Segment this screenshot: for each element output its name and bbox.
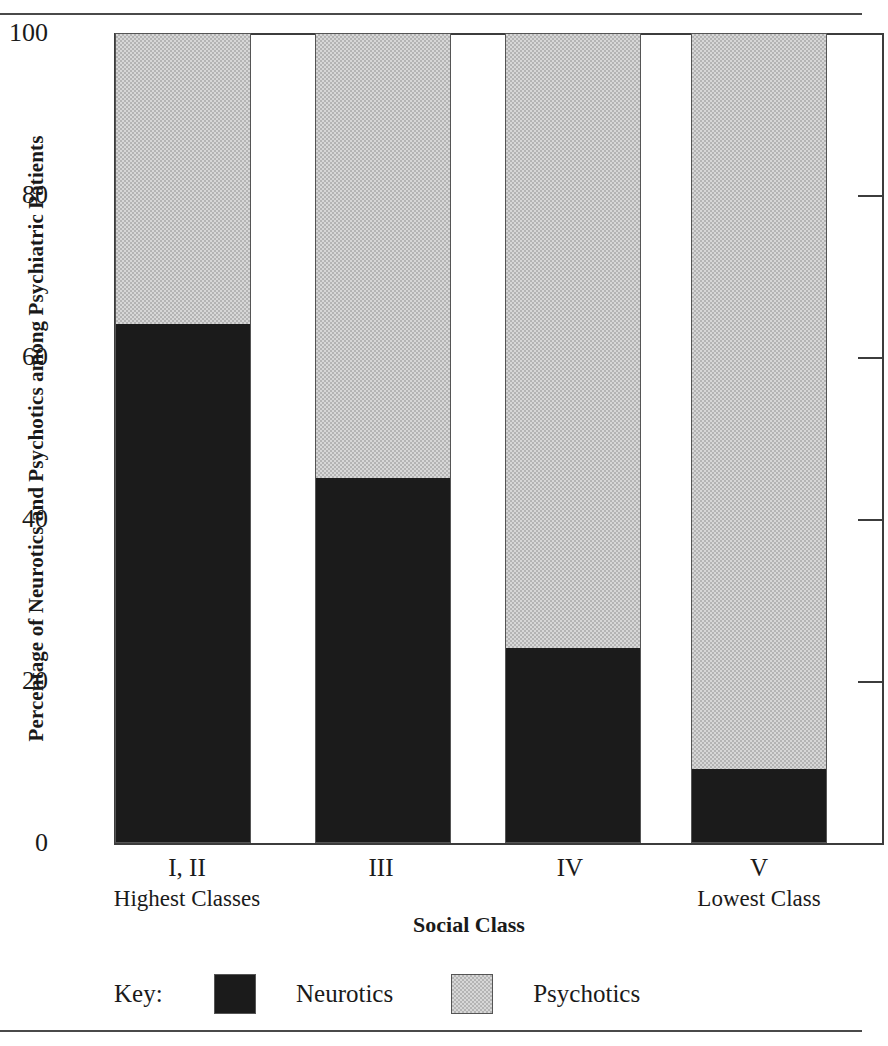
y-axis-title: Percentage of Neurotics and Psychotics a… (24, 29, 49, 849)
y-tick-right-60 (858, 357, 884, 359)
bar-segment-neurotics (316, 478, 450, 843)
bar-class-4[interactable] (505, 33, 641, 843)
bar-segment-psychotics (316, 34, 450, 480)
x-axis-title: Social Class (114, 912, 824, 938)
light-swatch-icon (451, 974, 493, 1014)
chart-figure: Percentage of Neurotics and Psychotics a… (0, 16, 862, 1028)
dark-swatch-icon (214, 974, 256, 1014)
chart-legend: Key: Neurotics Psychotics (114, 971, 824, 1017)
y-tick-label-20: 20 (0, 668, 48, 694)
bar-segment-neurotics (692, 769, 826, 842)
bar-segment-neurotics (116, 324, 250, 842)
y-tick-right-40 (858, 519, 884, 521)
y-tick-label-0: 0 (0, 830, 48, 856)
legend-key-label: Key: (114, 980, 214, 1008)
bar-segment-psychotics (116, 34, 250, 326)
x-category-label-4: V Lowest Class (619, 852, 888, 913)
legend-entry-psychotics[interactable]: Psychotics (451, 974, 640, 1014)
plot-right-border (882, 33, 884, 843)
y-tick-right-80 (858, 195, 884, 197)
y-tick-label-60: 60 (0, 344, 48, 370)
bar-class-1-2[interactable] (115, 33, 251, 843)
y-tick-right-20 (858, 681, 884, 683)
x-axis-line (114, 843, 884, 845)
bar-segment-psychotics (692, 34, 826, 771)
bar-class-3[interactable] (315, 33, 451, 843)
y-tick-label-40: 40 (0, 506, 48, 532)
page-rule-bottom (0, 1030, 862, 1032)
legend-entry-neurotics[interactable]: Neurotics (214, 974, 393, 1014)
y-tick-label-100: 100 (0, 20, 48, 46)
legend-label-neurotics: Neurotics (296, 980, 393, 1008)
page-rule-top (0, 13, 862, 15)
bar-class-5[interactable] (691, 33, 827, 843)
bar-segment-neurotics (506, 648, 640, 842)
x-category-sub-1: Highest Classes (45, 884, 329, 913)
y-tick-label-80: 80 (0, 182, 48, 208)
legend-label-psychotics: Psychotics (533, 980, 640, 1008)
bar-segment-psychotics (506, 34, 640, 650)
plot-area: 100 80 60 40 20 0 (114, 33, 884, 843)
x-category-roman-4: V (619, 852, 888, 884)
x-category-sub-4: Lowest Class (619, 884, 888, 913)
